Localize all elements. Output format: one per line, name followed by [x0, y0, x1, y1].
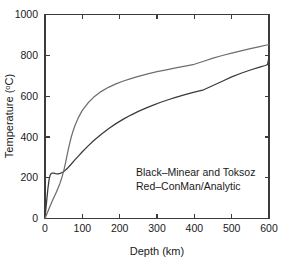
chart-annotations: Black–Minear and Toksoz Red–ConMan/Analy…: [136, 166, 255, 192]
series-line-minear-and-toksoz: [45, 57, 269, 219]
x-tick-label-0: 0: [42, 222, 48, 234]
y-axis-title-base: Temperature (: [3, 89, 15, 158]
temperature-depth-line-chart: 0100200300400500600 02004006008001000 De…: [0, 0, 289, 263]
y-axis-title-tail: C): [3, 74, 15, 86]
y-tick-label-400: 400: [20, 131, 38, 143]
series-line-conman-analytic: [45, 44, 269, 218]
x-tick-label-200: 200: [111, 222, 129, 234]
x-tick-label-500: 500: [223, 222, 241, 234]
svg-text:Temperature (oC): Temperature (oC): [3, 74, 16, 158]
y-tick-label-600: 600: [20, 90, 38, 102]
y-tick-label-1000: 1000: [15, 8, 39, 20]
x-tick-label-400: 400: [186, 222, 204, 234]
y-axis-tick-labels: 02004006008001000: [15, 8, 39, 224]
y-tick-label-0: 0: [32, 212, 38, 224]
chart-figure: 0100200300400500600 02004006008001000 De…: [0, 0, 289, 263]
annotation-black-series: Black–Minear and Toksoz: [136, 166, 255, 178]
annotation-red-series: Red–ConMan/Analytic: [136, 180, 240, 192]
x-tick-label-600: 600: [260, 222, 278, 234]
x-axis-title: Depth (km): [130, 245, 184, 257]
data-series-group: [45, 44, 269, 218]
y-tick-label-800: 800: [20, 49, 38, 61]
x-axis-tick-labels: 0100200300400500600: [42, 222, 278, 234]
x-tick-label-100: 100: [74, 222, 92, 234]
y-axis-title: Temperature (oC): [3, 74, 16, 158]
y-tick-label-200: 200: [20, 171, 38, 183]
x-tick-label-300: 300: [148, 222, 166, 234]
